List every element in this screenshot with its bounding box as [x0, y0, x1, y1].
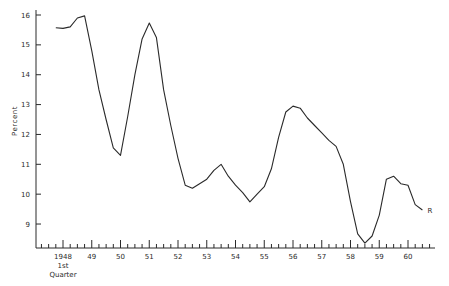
x-tick-label: 50 — [116, 253, 125, 261]
y-tick-label: 10 — [21, 191, 30, 199]
y-tick-label: 13 — [21, 101, 30, 109]
x-tick-label: 54 — [231, 253, 240, 261]
x-tick-label: 58 — [346, 253, 355, 261]
y-axis-label: Percent — [11, 106, 19, 136]
x-tick-label: 55 — [260, 253, 269, 261]
line-chart: 910111213141516 194849505152535455565758… — [0, 0, 449, 286]
y-tick-label: 16 — [21, 12, 30, 20]
x-axis-sublabel-quarter: Quarter — [49, 271, 76, 279]
x-tick-label: 51 — [145, 253, 154, 261]
x-axis: 1948495051525354555657585960 — [36, 240, 435, 261]
x-tick-label: 49 — [87, 253, 96, 261]
y-tick-label: 14 — [21, 71, 30, 79]
data-series-line — [56, 16, 423, 243]
series-end-label: R — [427, 207, 432, 215]
x-tick-label: 56 — [289, 253, 298, 261]
x-axis-sublabel-1st: 1st — [58, 262, 69, 270]
y-tick-label: 11 — [21, 161, 30, 169]
x-tick-label: 59 — [375, 253, 384, 261]
y-tick-label: 15 — [21, 41, 30, 49]
x-tick-label: 53 — [202, 253, 211, 261]
y-axis: 910111213141516 — [21, 10, 41, 248]
x-tick-label: 52 — [174, 253, 183, 261]
y-tick-label: 12 — [21, 131, 30, 139]
x-tick-label: 57 — [317, 253, 326, 261]
y-tick-label: 9 — [26, 221, 30, 229]
x-tick-label: 1948 — [54, 253, 72, 261]
x-tick-label: 60 — [404, 253, 413, 261]
